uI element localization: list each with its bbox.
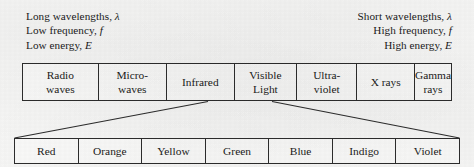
band-label-line-2: rays [423, 82, 442, 96]
visible-color-cell: Orange [79, 139, 143, 163]
electromagnetic-spectrum-band: RadiowavesMicro-wavesInfraredVisibleLigh… [22, 63, 452, 101]
caption-right-line-3: High energy, E [358, 38, 452, 52]
caption-right-line-3-text: High energy, [384, 39, 442, 51]
spectrum-band-cell: Micro-waves [99, 64, 167, 100]
caption-left-line-1-text: Long wavelengths, [26, 10, 112, 22]
spectrum-band-cell: Gammarays [415, 64, 451, 100]
visible-color-label: Blue [290, 144, 312, 158]
spectrum-band-cell: Radiowaves [23, 64, 99, 100]
energy-symbol-right: E [445, 39, 452, 51]
spectrum-band-cell: Infrared [167, 64, 235, 100]
visible-color-label: Orange [93, 144, 127, 158]
caption-long-wavelength: Long wavelengths, λ Low frequency, f Low… [26, 9, 120, 52]
caption-left-line-2: Low frequency, f [26, 23, 120, 37]
leader-line-left [15, 102, 209, 139]
spectrum-band-cell: X rays [357, 64, 415, 100]
caption-right-line-1: Short wavelengths, λ [358, 9, 452, 23]
visible-color-label: Indigo [349, 144, 379, 158]
visible-color-cell: Green [206, 139, 270, 163]
frequency-symbol-left: f [100, 24, 103, 36]
visible-color-label: Violet [414, 144, 442, 158]
caption-left-line-2-text: Low frequency, [26, 24, 97, 36]
spectrum-band-cell: Ultra-violet [297, 64, 357, 100]
visible-color-cell: Red [15, 139, 79, 163]
caption-left-line-3-text: Low energy, [26, 39, 82, 51]
caption-right-line-2-text: High frequency, [373, 24, 446, 36]
band-label-line-1: Ultra- [313, 68, 340, 82]
caption-right-line-2: High frequency, f [358, 23, 452, 37]
visible-color-label: Green [223, 144, 251, 158]
caption-left-line-3: Low energy, E [26, 38, 120, 52]
visible-color-cell: Violet [396, 139, 459, 163]
visible-color-label: Yellow [157, 144, 189, 158]
caption-short-wavelength: Short wavelengths, λ High frequency, f H… [358, 9, 452, 52]
visible-color-cell: Indigo [333, 139, 397, 163]
visible-color-label: Red [37, 144, 55, 158]
caption-left-line-1: Long wavelengths, λ [26, 9, 120, 23]
band-label-line-2: waves [46, 82, 74, 96]
visible-light-color-box: RedOrangeYellowGreenBlueIndigoViolet [14, 138, 460, 164]
band-label-line-1: Micro- [116, 68, 148, 82]
spectrum-band-cell: VisibleLight [235, 64, 297, 100]
visible-color-cell: Yellow [142, 139, 206, 163]
caption-right-line-1-text: Short wavelengths, [358, 10, 445, 22]
visible-color-cell: Blue [269, 139, 333, 163]
band-label-line-1: Gamma [415, 68, 451, 82]
band-label-line-2: violet [314, 82, 340, 96]
frequency-symbol-right: f [449, 24, 452, 36]
lambda-symbol-left: λ [115, 10, 120, 22]
leader-line-right [272, 102, 460, 139]
energy-symbol-left: E [85, 39, 92, 51]
band-label-line-2: Light [253, 82, 278, 96]
band-label-line-2: waves [118, 82, 146, 96]
band-label-line-1: Visible [249, 68, 281, 82]
lambda-symbol-right: λ [447, 10, 452, 22]
band-label-line-1: X rays [371, 75, 401, 89]
band-label-line-1: Infrared [182, 75, 219, 89]
band-label-line-1: Radio [47, 68, 74, 82]
